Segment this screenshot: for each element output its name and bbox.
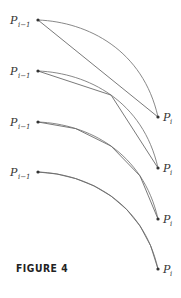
start-label-subscript: i−1: [18, 123, 31, 131]
end-point: [156, 217, 159, 220]
end-label-subscript: i: [170, 118, 172, 126]
end-point: [156, 115, 159, 118]
panel-3: Pi−1Pi: [9, 116, 172, 228]
chord-polyline: [38, 122, 158, 219]
arc-curve: [38, 122, 158, 219]
chord-polyline: [38, 172, 158, 269]
end-point: [156, 267, 159, 270]
start-label: P: [9, 166, 18, 179]
chord-polyline: [38, 71, 158, 168]
start-point: [36, 18, 39, 21]
end-point: [156, 166, 159, 169]
panel-1: Pi−1Pi: [9, 14, 172, 126]
start-label: P: [9, 116, 18, 129]
start-label: P: [9, 14, 18, 27]
start-label-subscript: i−1: [18, 173, 31, 181]
start-label: P: [9, 65, 18, 78]
arc-curve: [38, 172, 158, 269]
arc-curve: [38, 71, 158, 168]
end-label-subscript: i: [170, 270, 172, 278]
start-label-subscript: i−1: [18, 21, 31, 29]
start-point: [36, 170, 39, 173]
start-point: [36, 69, 39, 72]
end-label-subscript: i: [170, 169, 172, 177]
start-label-subscript: i−1: [18, 72, 31, 80]
chord-polyline: [38, 20, 158, 117]
figure-caption: FIGURE 4: [16, 262, 68, 274]
panel-2: Pi−1Pi: [9, 65, 172, 177]
start-point: [36, 120, 39, 123]
arc-length-figure: Pi−1PiPi−1PiPi−1PiPi−1Pi: [0, 0, 181, 298]
end-label-subscript: i: [170, 220, 172, 228]
